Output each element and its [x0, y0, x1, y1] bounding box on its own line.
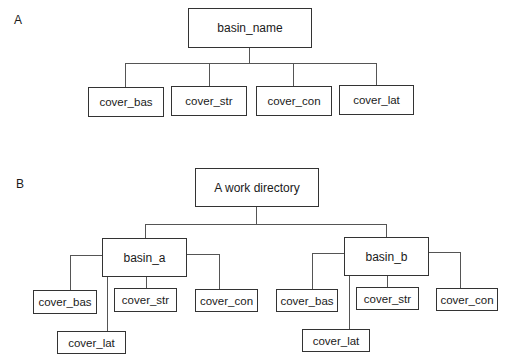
- panel-a-label: A: [14, 13, 22, 27]
- basin-a-cover-lat: cover_lat: [57, 331, 126, 354]
- basin-a-cover-con: cover_con: [195, 289, 258, 312]
- basin-a-cover-bas: cover_bas: [33, 290, 97, 314]
- root-node-work-directory: A work directory: [195, 168, 319, 207]
- basin-a-cover-str: cover_str: [114, 288, 177, 312]
- basin-node-a: basin_a: [102, 238, 187, 277]
- basin-b-cover-bas: cover_bas: [276, 289, 338, 312]
- child-node-cover-con: cover_con: [256, 86, 332, 116]
- child-node-cover-bas: cover_bas: [88, 87, 164, 117]
- basin-b-cover-lat: cover_lat: [302, 329, 370, 352]
- root-node-basin-name: basin_name: [188, 8, 312, 48]
- basin-node-b: basin_b: [344, 237, 429, 276]
- basin-b-cover-str: cover_str: [356, 287, 419, 310]
- basin-b-cover-con: cover_con: [436, 288, 498, 311]
- child-node-cover-str: cover_str: [171, 86, 247, 116]
- panel-b-label: B: [16, 177, 24, 191]
- child-node-cover-lat: cover_lat: [339, 85, 414, 115]
